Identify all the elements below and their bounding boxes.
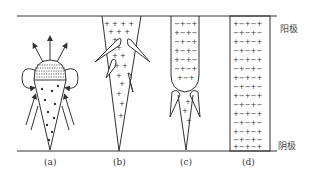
svg-text:−+−+−: −+−+− xyxy=(233,65,262,73)
svg-text:−+−+−: −+−+− xyxy=(233,83,262,91)
svg-text:+−+−: +−+− xyxy=(174,56,198,64)
svg-text:+ +: + + xyxy=(112,52,126,60)
svg-text:+: + xyxy=(119,80,125,88)
svg-text:+−+−+: +−+−+ xyxy=(233,143,262,151)
svg-text:+: + xyxy=(118,112,124,120)
svg-text:+−+−+: +−+−+ xyxy=(233,110,262,118)
panel-c-label: (c) xyxy=(180,157,192,167)
svg-text:+: + xyxy=(112,36,118,44)
svg-text:+: + xyxy=(116,44,122,52)
svg-text:−+−+−: −+−+− xyxy=(233,47,262,55)
svg-text:+: + xyxy=(116,72,122,80)
svg-text:+−+−: +−+− xyxy=(174,47,198,55)
svg-text:+−+−+: +−+−+ xyxy=(233,38,262,46)
svg-text:+−+−+: +−+−+ xyxy=(233,92,262,100)
panel-b-label: (b) xyxy=(113,157,126,167)
svg-text:−+−+−: −+−+− xyxy=(233,119,262,127)
panel-c-charges: −+−++−+− −+−++−+− +−+−−+−+ +−+ +++ xyxy=(174,20,198,125)
svg-text:−+−+−: −+−+− xyxy=(233,29,262,37)
svg-text:+: + xyxy=(186,117,192,125)
svg-text:+ +: + + xyxy=(114,62,128,70)
svg-text:+−+−+: +−+−+ xyxy=(233,20,262,28)
anode-label: 阳极 xyxy=(280,22,298,35)
svg-text:+−+−+: +−+−+ xyxy=(233,74,262,82)
svg-text:+ + + +: + + + + xyxy=(104,20,134,28)
svg-text:+−+−: +−+− xyxy=(174,29,198,37)
svg-text:+: + xyxy=(116,90,122,98)
panel-d-label: (d) xyxy=(242,157,255,167)
svg-text:+: + xyxy=(119,100,125,108)
diagram-canvas: + + + ++ + + +++ + + +++ +++ −+−++−+− −+… xyxy=(0,0,315,179)
svg-text:+−+−+: +−+−+ xyxy=(233,56,262,64)
panel-d-charges: +−+−+−+−+− +−+−+−+−+− +−+−+−+−+− +−+−+−+… xyxy=(233,20,262,151)
svg-text:+ + +: + + + xyxy=(108,28,130,36)
svg-text:+: + xyxy=(185,98,191,106)
svg-text:−+−+−: −+−+− xyxy=(233,101,262,109)
svg-text:−+−+: −+−+ xyxy=(174,65,198,73)
panel-a-label: (a) xyxy=(44,157,56,167)
svg-text:+−+: +−+ xyxy=(177,74,195,82)
svg-text:−+−+: −+−+ xyxy=(174,20,198,28)
svg-text:+−+−+: +−+−+ xyxy=(233,128,262,136)
cathode-label: 阴极 xyxy=(278,139,296,152)
svg-text:−+−+: −+−+ xyxy=(174,38,198,46)
streamer-diagram: + + + ++ + + +++ + + +++ +++ −+−++−+− −+… xyxy=(0,0,315,179)
svg-text:+: + xyxy=(182,107,188,115)
panel-a xyxy=(22,38,78,150)
